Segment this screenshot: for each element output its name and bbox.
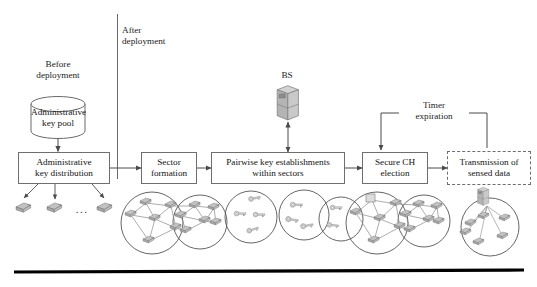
sensor-nodes-ellipsis: ... bbox=[70, 203, 94, 215]
before-deployment-line2: deployment bbox=[18, 70, 98, 81]
sensor-mote-3 bbox=[97, 203, 112, 212]
secure-ch-line2: election bbox=[375, 168, 415, 179]
before-deployment-line1: Before bbox=[18, 59, 98, 70]
key-pool-line1: Administrative bbox=[31, 107, 85, 118]
pairwise-key-node[interactable]: Pairwise key establishments within secto… bbox=[211, 152, 345, 184]
pairwise-key-line1: Pairwise key establishments bbox=[226, 157, 330, 168]
base-station-server-icon bbox=[277, 86, 298, 120]
pairwise-key-illustration bbox=[225, 190, 363, 243]
key-pool-node[interactable]: Administrative key pool bbox=[31, 107, 85, 129]
after-deployment-line1: After bbox=[122, 25, 196, 36]
key-pool-line2: key pool bbox=[31, 118, 85, 129]
pairwise-key-line2: within sectors bbox=[226, 168, 330, 179]
key-distribution-line2: key distribution bbox=[35, 168, 93, 179]
sector-formation-line1: Sector bbox=[151, 157, 187, 168]
timer-expiration-label: Timer expiration bbox=[399, 100, 469, 122]
key-distribution-line1: Administrative bbox=[35, 157, 93, 168]
after-deployment-line2: deployment bbox=[122, 36, 196, 47]
secure-ch-line1: Secure CH bbox=[375, 157, 415, 168]
diagram-vector-layer bbox=[0, 0, 537, 287]
before-deployment-label: Before deployment bbox=[18, 59, 98, 81]
transmission-line1: Transmission of bbox=[459, 157, 518, 168]
base-station-label: BS bbox=[267, 70, 307, 81]
transmission-line2: sensed data bbox=[459, 168, 518, 179]
after-deployment-label: After deployment bbox=[122, 25, 196, 47]
transmission-node[interactable]: Transmission of sensed data bbox=[447, 151, 531, 185]
sensor-mote-2 bbox=[47, 203, 62, 212]
timer-expiration-line2: expiration bbox=[399, 111, 469, 122]
sector-formation-line2: formation bbox=[151, 168, 187, 179]
cluster-head-illustration bbox=[346, 192, 450, 254]
sector-formation-node[interactable]: Sector formation bbox=[141, 152, 197, 184]
base-station-label-text: BS bbox=[267, 70, 307, 81]
key-distribution-node[interactable]: Administrative key distribution bbox=[18, 152, 110, 184]
timer-expiration-line1: Timer bbox=[399, 100, 469, 111]
sensor-mote-1 bbox=[16, 203, 31, 212]
secure-ch-election-node[interactable]: Secure CH election bbox=[362, 152, 428, 184]
sector-cluster-illustration bbox=[121, 192, 227, 254]
figure-canvas: Before deployment After deployment Admin… bbox=[0, 0, 537, 287]
data-transmission-illustration bbox=[460, 187, 519, 256]
